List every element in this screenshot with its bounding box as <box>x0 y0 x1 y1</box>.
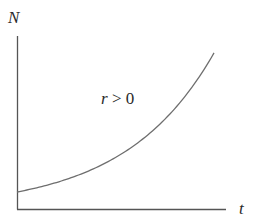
annotation-condition: > 0 <box>108 89 135 108</box>
growth-rate-annotation: r > 0 <box>101 90 134 107</box>
annotation-r: r <box>101 89 108 108</box>
exponential-growth-chart <box>0 0 257 222</box>
y-axis-label: N <box>8 9 19 26</box>
x-axis-label: t <box>239 200 244 217</box>
growth-curve <box>17 53 214 192</box>
